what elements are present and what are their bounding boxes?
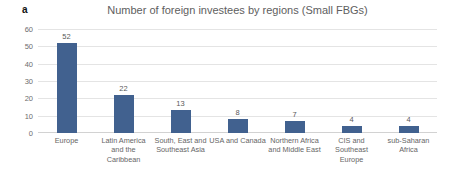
- category-label: Northern Africa and Middle East: [266, 136, 323, 155]
- category-label: USA and Canada: [209, 136, 266, 145]
- bar[interactable]: [171, 110, 191, 133]
- category-label: South, East and Southeast Asia: [152, 136, 209, 155]
- bar-slot: 4: [323, 29, 380, 133]
- y-axis-tick-label: 10: [25, 111, 33, 120]
- bar-value-label: 7: [292, 110, 296, 119]
- plot-area: 0102030405060 5222138744: [38, 29, 437, 133]
- bar-slot: 8: [209, 29, 266, 133]
- bar[interactable]: [57, 43, 77, 133]
- bar-value-label: 52: [62, 32, 70, 41]
- x-axis-category-labels: EuropeLatin America and the CaribbeanSou…: [38, 136, 437, 177]
- y-axis-tick-label: 30: [25, 77, 33, 86]
- bar[interactable]: [342, 126, 362, 133]
- bar-value-label: 13: [176, 99, 184, 108]
- y-axis-tick-label: 40: [25, 59, 33, 68]
- category-label: Europe: [38, 136, 95, 145]
- bar-value-label: 22: [119, 84, 127, 93]
- bar-slot: 7: [266, 29, 323, 133]
- bar[interactable]: [228, 119, 248, 133]
- bar-slot: 22: [95, 29, 152, 133]
- y-axis-tick-label: 60: [25, 25, 33, 34]
- chart-title: Number of foreign investees by regions (…: [38, 3, 437, 17]
- bar-value-label: 4: [349, 115, 353, 124]
- bar[interactable]: [399, 126, 419, 133]
- bar[interactable]: [285, 121, 305, 133]
- bar-slot: 4: [380, 29, 437, 133]
- bar[interactable]: [114, 95, 134, 133]
- category-label: CIS and Southeast Europe: [323, 136, 380, 164]
- y-axis-tick-label: 0: [29, 129, 33, 138]
- category-label: Latin America and the Caribbean: [95, 136, 152, 164]
- y-axis-tick-label: 20: [25, 94, 33, 103]
- bar-slot: 52: [38, 29, 95, 133]
- bar-value-label: 4: [406, 115, 410, 124]
- y-axis-tick-label: 50: [25, 42, 33, 51]
- bar-slot: 13: [152, 29, 209, 133]
- category-label: sub-Saharan Africa: [380, 136, 437, 155]
- bar-value-label: 8: [235, 108, 239, 117]
- panel-letter: a: [22, 4, 28, 16]
- chart-figure: a Number of foreign investees by regions…: [0, 0, 454, 177]
